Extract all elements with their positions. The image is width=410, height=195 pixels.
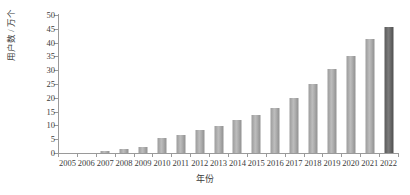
bar-slot <box>190 15 209 153</box>
bar-slot <box>228 15 247 153</box>
y-tick-label: 35 <box>33 52 55 60</box>
bar-slot <box>209 15 228 153</box>
bar <box>290 98 299 153</box>
x-tick-mark <box>266 153 267 157</box>
x-tick-mark <box>134 153 135 157</box>
x-tick-mark <box>228 153 229 157</box>
bar-slot <box>266 15 285 153</box>
x-tick-mark <box>379 153 380 157</box>
x-axis-title: 年份 <box>0 172 410 185</box>
x-tick-mark <box>304 153 305 157</box>
bar <box>195 130 204 153</box>
y-tick-label: 50 <box>33 11 55 19</box>
bar <box>157 138 166 153</box>
x-tick-mark <box>152 153 153 157</box>
x-tick-mark <box>398 153 399 157</box>
x-tick-mark <box>285 153 286 157</box>
bar-slot <box>115 15 134 153</box>
bar <box>384 27 393 153</box>
bar-slot <box>152 15 171 153</box>
bar-slot <box>360 15 379 153</box>
y-axis-title: 用户数 / 万个 <box>4 0 18 90</box>
bar-slot <box>96 15 115 153</box>
bar-slot <box>171 15 190 153</box>
x-tick-mark <box>77 153 78 157</box>
bar-slot <box>379 15 398 153</box>
y-tick-label: 15 <box>33 108 55 116</box>
x-tick-mark <box>341 153 342 157</box>
bar-slot <box>304 15 323 153</box>
bar-slot <box>285 15 304 153</box>
y-tick-label: 20 <box>33 94 55 102</box>
bar <box>271 108 280 153</box>
y-tick-label: 30 <box>33 66 55 74</box>
x-tick-mark <box>209 153 210 157</box>
bar <box>365 39 374 153</box>
bar <box>233 120 242 153</box>
x-tick-mark <box>190 153 191 157</box>
bar-slot <box>247 15 266 153</box>
x-axis-ticks: 2005200620072008200920102011201220132014… <box>58 153 398 173</box>
x-tick-mark <box>58 153 59 157</box>
y-tick-label: 0 <box>33 149 55 157</box>
x-tick-mark <box>247 153 248 157</box>
bar <box>346 56 355 153</box>
bar <box>176 135 185 153</box>
x-tick-mark <box>96 153 97 157</box>
bar-slot <box>58 15 77 153</box>
y-tick-label: 45 <box>33 25 55 33</box>
y-tick-label: 10 <box>33 121 55 129</box>
x-tick-label: 2022 <box>374 158 404 168</box>
x-tick-mark <box>360 153 361 157</box>
bar-slot <box>341 15 360 153</box>
bar <box>214 126 223 153</box>
y-tick-label: 40 <box>33 39 55 47</box>
y-tick-label: 5 <box>33 135 55 143</box>
bar-slot <box>322 15 341 153</box>
bar-slot <box>134 15 153 153</box>
bar-series <box>58 15 398 153</box>
x-tick-mark <box>322 153 323 157</box>
x-tick-mark <box>115 153 116 157</box>
bar <box>327 69 336 153</box>
bar-chart: 用户数 / 万个 05101520253035404550 2005200620… <box>0 0 410 195</box>
bar <box>308 84 317 153</box>
bar-slot <box>77 15 96 153</box>
y-tick-label: 25 <box>33 80 55 88</box>
bar <box>252 115 261 153</box>
x-tick-mark <box>171 153 172 157</box>
